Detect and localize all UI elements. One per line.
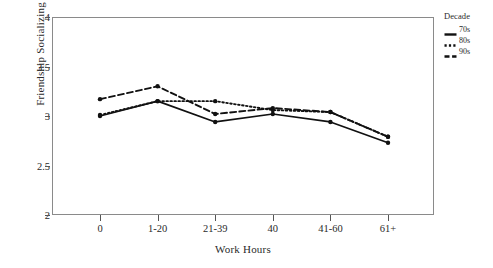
x-tick-mark: [215, 215, 216, 221]
legend: Decade 70s80s90s: [441, 11, 493, 57]
x-tick-label: 21-39: [185, 223, 245, 234]
data-point-70s: [271, 112, 275, 116]
x-tick-mark: [388, 215, 389, 221]
chart-figure: Friendship Socializing 22.533.54 01-2021…: [0, 0, 493, 268]
legend-item-80s[interactable]: 80s: [444, 35, 493, 46]
x-tick-mark: [158, 215, 159, 221]
x-tick-mark: [100, 215, 101, 221]
legend-item-label: 70s: [459, 25, 470, 34]
legend-line-icon: [444, 36, 457, 45]
x-tick-mark: [330, 215, 331, 221]
legend-title: Decade: [444, 11, 493, 21]
data-point-90s: [386, 135, 390, 139]
legend-item-label: 90s: [459, 47, 470, 56]
x-tick-label: 61+: [358, 223, 418, 234]
series-line-70s: [100, 101, 388, 143]
data-point-80s: [213, 99, 217, 103]
x-tick-label: 0: [70, 223, 130, 234]
series-line-90s: [100, 86, 388, 136]
x-tick-label: 41-60: [300, 223, 360, 234]
data-point-90s: [213, 112, 217, 116]
data-point-80s: [155, 99, 159, 103]
legend-line-icon: [444, 47, 457, 56]
data-point-80s: [98, 113, 102, 117]
data-point-70s: [328, 120, 332, 124]
legend-item-70s[interactable]: 70s: [444, 24, 493, 35]
y-tick-mark: [45, 215, 50, 216]
x-tick-label: 1-20: [128, 223, 188, 234]
data-point-70s: [386, 141, 390, 145]
data-point-70s: [213, 120, 217, 124]
data-point-90s: [155, 84, 159, 88]
legend-item-90s[interactable]: 90s: [444, 46, 493, 57]
data-point-90s: [271, 106, 275, 110]
y-tick-mark: [45, 67, 50, 68]
data-point-90s: [98, 97, 102, 101]
data-point-90s: [328, 110, 332, 114]
y-tick-mark: [45, 166, 50, 167]
legend-entries: 70s80s90s: [441, 24, 493, 57]
y-axis-ticks: 22.533.54: [8, 0, 50, 268]
plot-lines: [52, 17, 434, 215]
legend-item-label: 80s: [459, 36, 470, 45]
legend-line-icon: [444, 25, 457, 34]
x-tick-mark: [273, 215, 274, 221]
y-tick-mark: [45, 116, 50, 117]
x-tick-label: 40: [243, 223, 303, 234]
y-tick-mark: [45, 17, 50, 18]
x-axis-title: Work Hours: [52, 243, 434, 255]
